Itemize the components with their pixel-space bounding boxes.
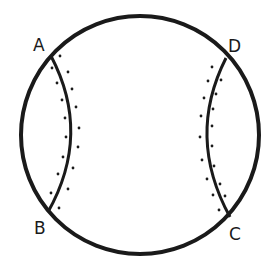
ball-outline bbox=[21, 16, 259, 254]
stitch-dot bbox=[67, 71, 70, 74]
point-label-a: A bbox=[33, 35, 45, 55]
stitch-dot bbox=[211, 66, 214, 69]
stitch-dot bbox=[77, 146, 80, 149]
stitch-dot bbox=[220, 79, 223, 82]
point-label-c: C bbox=[229, 224, 241, 244]
stitch-dot bbox=[215, 93, 218, 96]
stitch-dot bbox=[58, 207, 61, 210]
stitch-dot bbox=[50, 192, 53, 195]
diagram-canvas: A D B C bbox=[0, 0, 272, 266]
stitch-dot bbox=[65, 136, 68, 139]
stitch-dot bbox=[78, 127, 81, 130]
stitch-dot bbox=[51, 67, 54, 70]
stitch-dot bbox=[224, 195, 227, 198]
stitch-dot bbox=[213, 165, 216, 168]
stitch-dot bbox=[211, 125, 214, 128]
stitch-dot bbox=[212, 194, 215, 197]
stitch-dot bbox=[59, 55, 62, 58]
stitch-dot bbox=[72, 167, 75, 170]
stitch-dot bbox=[67, 188, 70, 191]
stitch-dot bbox=[62, 156, 65, 159]
stitch-dot bbox=[212, 108, 215, 111]
stitch-dot bbox=[57, 173, 60, 176]
tennis-ball-diagram: A D B C bbox=[0, 0, 272, 266]
stitch-dot bbox=[64, 117, 67, 120]
stitch-dot bbox=[201, 159, 204, 162]
stitch-dot bbox=[219, 183, 222, 186]
stitch-dot bbox=[206, 178, 209, 181]
point-label-d: D bbox=[228, 36, 241, 56]
stitch-dot bbox=[56, 82, 59, 85]
stitch-dot bbox=[75, 106, 78, 109]
point-label-b: B bbox=[34, 218, 46, 238]
stitch-dot bbox=[211, 145, 214, 148]
stitch-dot bbox=[199, 136, 202, 139]
stitch-dot bbox=[61, 99, 64, 102]
stitch-dot bbox=[200, 115, 203, 118]
stitch-dots bbox=[50, 55, 227, 212]
seam-arc-dc bbox=[207, 58, 230, 217]
stitch-dot bbox=[207, 80, 210, 83]
stitch-dot bbox=[71, 88, 74, 91]
stitch-dot bbox=[218, 209, 221, 212]
stitch-dot bbox=[203, 97, 206, 100]
